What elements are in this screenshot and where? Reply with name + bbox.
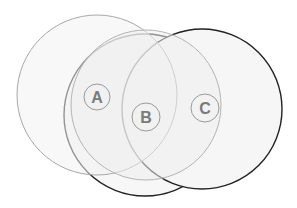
diagram-canvas: ABC: [0, 0, 297, 208]
label-a: A: [84, 84, 110, 110]
label-text: C: [199, 100, 211, 117]
venn-diagram: ABC: [0, 0, 297, 208]
label-b: B: [132, 103, 160, 131]
label-c: C: [191, 94, 219, 122]
label-text: B: [140, 109, 152, 126]
label-text: A: [91, 89, 103, 106]
